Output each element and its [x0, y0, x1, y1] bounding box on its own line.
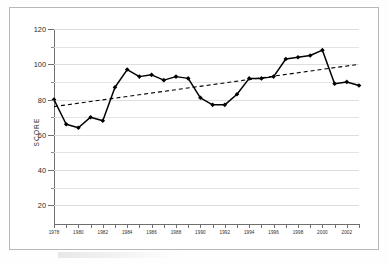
- x-axis-tick-label: 1982: [97, 230, 108, 235]
- x-axis-tick: [335, 224, 336, 228]
- data-point-marker: [332, 81, 337, 86]
- y-axis-tick: [48, 205, 54, 206]
- x-axis-tick-label: 1992: [219, 230, 230, 235]
- x-axis-tick: [164, 224, 165, 228]
- data-point-marker: [320, 48, 325, 53]
- x-axis-tick: [103, 224, 104, 228]
- scan-artifact: [58, 252, 178, 258]
- x-axis-tick-label: 1988: [171, 230, 182, 235]
- x-axis-tick: [152, 224, 153, 228]
- chart-figure: SCORE 1978198019821984198619881990199219…: [0, 0, 389, 264]
- x-axis-tick: [66, 224, 67, 228]
- score-line: [54, 50, 359, 128]
- data-point-marker: [259, 76, 264, 81]
- x-axis-tick: [261, 224, 262, 228]
- y-axis-tick: [48, 100, 54, 101]
- x-axis-line: 1978198019821984198619881990199219941996…: [54, 224, 360, 225]
- x-axis-tick-label: 1984: [122, 230, 133, 235]
- x-axis-tick-label: 2000: [317, 230, 328, 235]
- y-axis-minor-tick: [51, 82, 54, 83]
- y-axis-tick-label: 100: [34, 60, 46, 69]
- y-axis-minor-tick: [51, 47, 54, 48]
- x-axis-tick: [225, 224, 226, 228]
- x-axis-tick-label: 1996: [268, 230, 279, 235]
- y-axis-tick-label: 60: [38, 130, 46, 139]
- x-axis-tick-label: 1978: [49, 230, 60, 235]
- x-axis-tick: [274, 224, 275, 228]
- x-axis-tick-label: 1986: [146, 230, 157, 235]
- data-point-marker: [162, 78, 167, 83]
- y-axis-minor-tick: [51, 117, 54, 118]
- x-axis-tick-label: 1998: [293, 230, 304, 235]
- x-axis-tick: [322, 224, 323, 228]
- x-axis-tick: [54, 224, 55, 228]
- x-axis-tick-label: 2002: [341, 230, 352, 235]
- y-axis-tick-label: 20: [38, 201, 46, 210]
- y-axis-tick: [48, 64, 54, 65]
- x-axis-tick: [237, 224, 238, 228]
- plot-area: 20406080100120: [54, 29, 359, 223]
- x-axis-tick: [249, 224, 250, 228]
- x-axis-tick: [298, 224, 299, 228]
- x-axis-tick: [176, 224, 177, 228]
- y-axis-minor-tick: [51, 188, 54, 189]
- x-axis-tick: [213, 224, 214, 228]
- x-axis-tick: [310, 224, 311, 228]
- series-layer: [54, 29, 359, 223]
- x-axis-tick: [91, 224, 92, 228]
- x-axis-tick-label: 1990: [195, 230, 206, 235]
- x-axis-tick: [78, 224, 79, 228]
- x-axis-tick: [359, 224, 360, 228]
- x-axis-tick: [286, 224, 287, 228]
- x-axis-tick: [115, 224, 116, 228]
- data-point-marker: [345, 80, 350, 85]
- data-point-marker: [296, 55, 301, 60]
- x-axis-tick: [347, 224, 348, 228]
- data-point-marker: [101, 118, 106, 123]
- trend-line: [54, 64, 359, 106]
- x-axis-tick-label: 1994: [244, 230, 255, 235]
- y-axis-tick-label: 120: [34, 25, 46, 34]
- y-axis-minor-tick: [51, 152, 54, 153]
- x-axis-tick-label: 1980: [73, 230, 84, 235]
- data-point-marker: [308, 53, 313, 58]
- y-axis-tick: [48, 170, 54, 171]
- y-axis-tick: [48, 29, 54, 30]
- y-axis-tick-label: 40: [38, 166, 46, 175]
- x-axis-tick: [139, 224, 140, 228]
- y-axis-tick-label: 80: [38, 95, 46, 104]
- x-axis-tick: [200, 224, 201, 228]
- y-axis-tick: [48, 135, 54, 136]
- x-axis-tick: [188, 224, 189, 228]
- x-axis-tick: [127, 224, 128, 228]
- data-point-marker: [174, 74, 179, 79]
- data-point-marker: [149, 73, 154, 78]
